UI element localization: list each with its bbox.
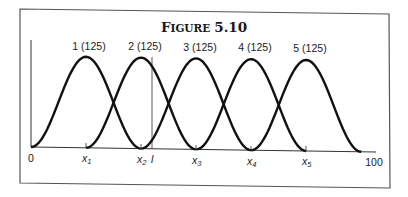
marker-label-x2: x2: [136, 153, 147, 167]
curve-label-3: 3 (125): [183, 41, 216, 53]
curve-label-1: 1 (125): [72, 40, 105, 52]
curve-2: [86, 58, 196, 150]
curve-1: [31, 57, 141, 149]
curve-3: [141, 58, 251, 150]
curve-5: [251, 60, 361, 152]
figure-title: FIGURE5.10: [161, 19, 247, 35]
curve-4: [196, 59, 306, 151]
vertical-marker-label: l: [151, 153, 154, 165]
curve-label-5: 5 (125): [293, 42, 326, 54]
curve-label-2: 2 (125): [128, 40, 161, 52]
curve-label-4: 4 (125): [238, 41, 271, 53]
marker-label-x3: x3: [191, 154, 202, 168]
curves-group: [31, 57, 361, 152]
tick-marks: [86, 143, 306, 151]
marker-label-x1: x1: [81, 152, 91, 166]
marker-label-x4: x4: [246, 155, 256, 169]
figure-canvas: FIGURE5.10 1 (125) 2 (125) 3 (125) 4 (12…: [0, 0, 408, 197]
figure-frame: [20, 9, 390, 188]
marker-label-x5: x5: [301, 155, 312, 169]
axis-end-label: 100: [365, 156, 383, 168]
axis-start-label: 0: [28, 152, 34, 164]
